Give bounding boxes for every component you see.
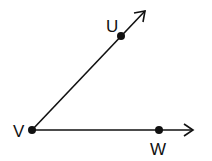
- label-w: W: [150, 140, 166, 159]
- point-v: [28, 126, 36, 134]
- angle-diagram: U V W: [0, 0, 212, 161]
- label-v: V: [13, 122, 25, 141]
- point-w: [155, 126, 163, 134]
- ray-vu: [32, 11, 145, 130]
- label-u: U: [106, 17, 118, 36]
